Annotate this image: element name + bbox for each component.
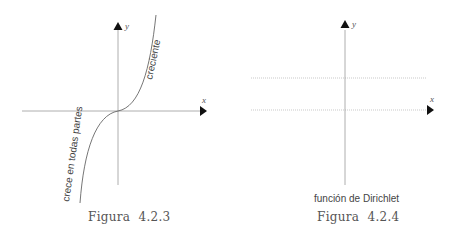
figure-title: Figura 4.2.3 [88, 210, 171, 224]
label-crece-en-todas-partes: crece en todas partes [60, 106, 84, 203]
y-axis-label: y [124, 21, 129, 31]
y-axis-arrow-icon [114, 22, 123, 30]
dirichlet-graph: x y función de Dirichlet [229, 0, 459, 230]
dirichlet-caption: función de Dirichlet [314, 193, 399, 204]
figure-title: Figura 4.2.4 [317, 210, 400, 224]
x-axis-arrow-icon [200, 106, 207, 116]
y-axis-arrow-icon [341, 20, 350, 28]
x-axis-label: x [429, 94, 434, 104]
label-creciente: creciente [143, 38, 162, 80]
cubic-graph: x y creciente crece en todas partes [0, 0, 230, 230]
figure-4-2-3: x y creciente crece en todas partes Figu… [0, 0, 230, 230]
figure-4-2-4: x y función de Dirichlet Figura 4.2.4 [229, 0, 459, 230]
x-axis-label: x [201, 95, 206, 105]
x-axis-arrow-icon [427, 105, 434, 115]
y-axis-label: y [351, 19, 356, 29]
